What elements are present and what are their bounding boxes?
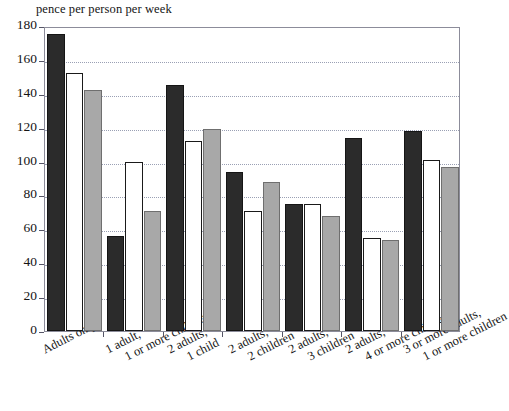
bar-black (404, 131, 422, 331)
bar-white (423, 160, 441, 331)
bar-black (47, 34, 65, 331)
bars-layer (45, 28, 459, 331)
y-axis-tick-label: 40 (24, 255, 38, 269)
bar-group (107, 28, 162, 331)
bar-black (226, 172, 244, 331)
bar-gray (441, 167, 459, 331)
y-axis-tick-label: 160 (17, 52, 37, 66)
bar-white (125, 162, 143, 331)
y-axis-tick-label: 20 (24, 289, 38, 303)
bar-white (185, 141, 203, 331)
y-axis-tick-label: 80 (24, 187, 38, 201)
bar-group (166, 28, 221, 331)
bar-white (66, 73, 84, 331)
bar-gray (382, 240, 400, 332)
bar-black (345, 138, 363, 331)
y-axis-tick-label: 60 (24, 221, 38, 235)
bar-group (47, 28, 102, 331)
chart-title: pence per person per week (36, 2, 172, 17)
bar-group (404, 28, 459, 331)
bar-black (285, 204, 303, 331)
bar-gray (203, 129, 221, 331)
bar-gray (84, 90, 102, 331)
x-axis-labels: Adults only1 adult,1 or more children2 a… (0, 332, 482, 411)
bar-white (363, 238, 381, 331)
bar-gray (263, 182, 281, 331)
y-axis-tick-label: 140 (17, 86, 37, 100)
y-axis-tick-label: 120 (17, 120, 37, 134)
bar-white (244, 211, 262, 331)
y-axis-tick-label: 180 (17, 18, 37, 32)
plot-area (44, 27, 460, 332)
y-axis-tick-label: 100 (17, 154, 37, 168)
bar-white (304, 204, 322, 331)
bar-group (285, 28, 340, 331)
bar-black (107, 236, 125, 331)
bar-gray (144, 211, 162, 331)
bar-group (226, 28, 281, 331)
bar-black (166, 85, 184, 331)
bar-gray (322, 216, 340, 331)
bar-group (345, 28, 400, 331)
y-axis: 204060801001201401601800 (0, 27, 44, 332)
